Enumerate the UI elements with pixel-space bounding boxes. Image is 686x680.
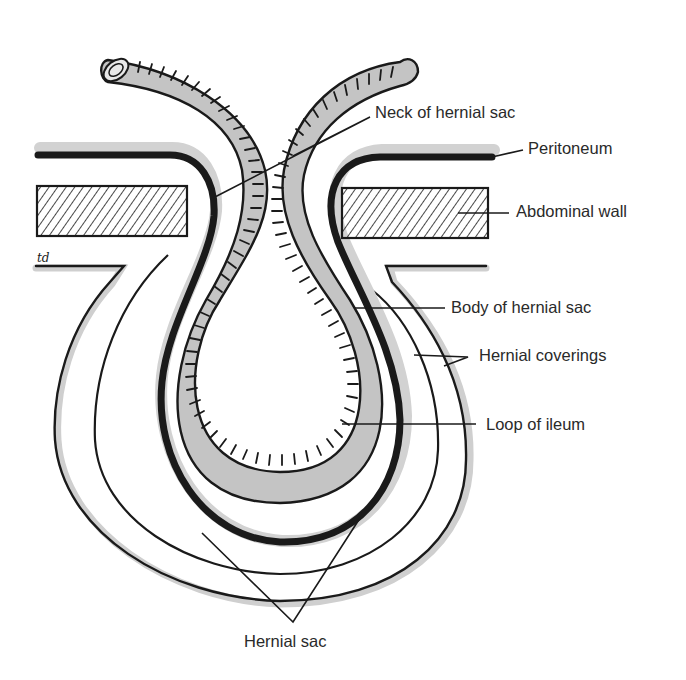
label-body-of-hernial-sac: Body of hernial sac bbox=[451, 299, 591, 316]
artist-signature: td bbox=[37, 251, 50, 265]
hernial-coverings-outer bbox=[36, 266, 486, 604]
hernia-diagram: td bbox=[0, 0, 686, 680]
hernial-coverings-inner bbox=[95, 230, 438, 574]
label-hernial-sac: Hernial sac bbox=[244, 633, 327, 650]
label-peritoneum: Peritoneum bbox=[528, 140, 612, 157]
label-abdominal-wall: Abdominal wall bbox=[516, 203, 627, 220]
label-neck-of-hernial-sac: Neck of hernial sac bbox=[375, 104, 515, 121]
label-loop-of-ileum: Loop of ileum bbox=[486, 416, 585, 433]
label-hernial-coverings: Hernial coverings bbox=[479, 347, 606, 364]
